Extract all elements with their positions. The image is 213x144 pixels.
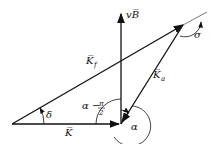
ka-label: K̅ — [152, 69, 161, 80]
sigma-label: σ — [194, 29, 202, 40]
kf-label: K̅ — [85, 55, 94, 66]
two-label: 2 — [98, 109, 104, 117]
k-label: K̅ — [64, 127, 73, 138]
delta-label: δ — [46, 109, 52, 120]
kf-subscript: f — [93, 61, 98, 69]
ka-subscript: a — [161, 75, 165, 83]
alpha-label: α — [131, 121, 138, 132]
ka-vector — [121, 25, 183, 124]
ka-arrow — [122, 113, 128, 122]
vb-label: vB̅ — [126, 9, 139, 20]
vector-diagram: vB̅ K̅ f K̅ a K̅ δ α − π 2 α σ — [0, 0, 213, 144]
pi-label: π — [98, 100, 104, 108]
alpha-inner-arc — [121, 110, 129, 113]
kf-extension — [183, 12, 207, 25]
delta-arc — [40, 108, 44, 124]
alpha-minus-label: α − — [82, 100, 100, 111]
